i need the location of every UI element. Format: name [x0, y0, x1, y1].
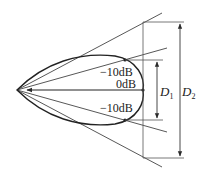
diagram-svg: −10dB 0dB −10dB D1 D2 — [0, 0, 205, 181]
label-d2: D2 — [181, 84, 195, 101]
outer-upper-line — [17, 13, 162, 90]
label-lower-minus10db: −10dB — [100, 101, 133, 115]
directivity-diagram: −10dB 0dB −10dB D1 D2 — [0, 0, 205, 181]
inner-upper-line — [17, 48, 167, 90]
label-d1: D1 — [159, 84, 173, 101]
outer-lower-line — [17, 90, 162, 167]
label-zero-db: 0dB — [116, 77, 136, 91]
inner-lower-line — [17, 90, 167, 132]
